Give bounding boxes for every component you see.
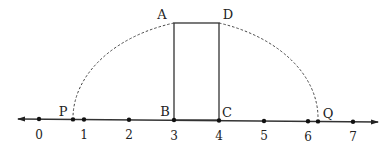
tick-label-3: 3 — [170, 129, 178, 143]
point-label-C: C — [222, 105, 232, 120]
point-label-A: A — [156, 7, 167, 22]
tick-label-0: 0 — [35, 128, 43, 142]
point-label-D: D — [223, 7, 233, 22]
number-line-diagram: 0 1 2 3 4 5 6 7 A D B C P Q — [0, 0, 384, 156]
tick-label-2: 2 — [125, 128, 133, 142]
tick-label-6: 6 — [304, 130, 312, 144]
left-arrow-icon — [17, 117, 25, 122]
tick-label-7: 7 — [349, 130, 357, 144]
tick-label-4: 4 — [215, 129, 223, 143]
point-label-Q: Q — [323, 106, 334, 121]
point-label-P: P — [59, 104, 68, 119]
right-arrow-icon — [371, 120, 379, 125]
point-label-B: B — [160, 104, 170, 119]
tick-label-5: 5 — [260, 129, 268, 143]
arc-DQ — [219, 23, 318, 118]
tick-label-1: 1 — [80, 128, 88, 142]
arc-AP — [73, 23, 174, 117]
rectangle-ABCD — [174, 23, 219, 120]
